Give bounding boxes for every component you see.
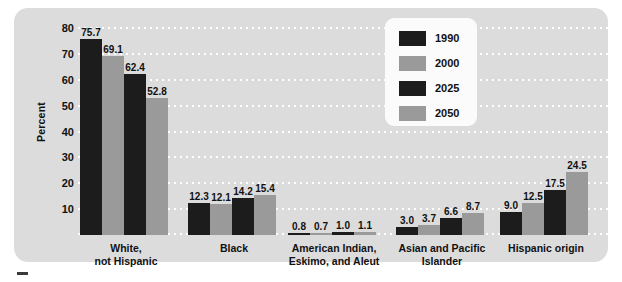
legend-list: 1990200020252050 <box>399 27 459 127</box>
bar[interactable]: 69.1 <box>102 56 124 235</box>
legend-item[interactable]: 1990 <box>399 27 459 50</box>
bar-value-label: 9.0 <box>504 200 518 211</box>
bar[interactable]: 3.0 <box>396 227 418 235</box>
legend-swatch <box>399 31 426 46</box>
legend-label: 1990 <box>435 33 459 44</box>
bar[interactable]: 0.7 <box>310 233 332 235</box>
legend-label: 2050 <box>435 108 459 119</box>
bar[interactable]: 15.4 <box>254 195 276 235</box>
bar-group-bars: 0.80.71.01.1 <box>288 28 380 235</box>
bar[interactable]: 3.7 <box>418 225 440 235</box>
bar-group: 0.80.71.01.1 <box>288 28 380 235</box>
plot-area: 75.769.162.452.812.312.114.215.40.80.71.… <box>76 28 610 235</box>
bar[interactable]: 9.0 <box>500 212 522 235</box>
legend-swatch <box>399 81 426 96</box>
bar[interactable]: 0.8 <box>288 233 310 235</box>
bar-group-bars: 75.769.162.452.8 <box>80 28 172 235</box>
bar-value-label: 12.1 <box>211 192 230 203</box>
bar-value-label: 24.5 <box>567 160 586 171</box>
bar-group: 9.012.517.524.5 <box>500 28 592 235</box>
y-axis-title: Percent <box>35 87 47 157</box>
bar-group-bars: 12.312.114.215.4 <box>188 28 280 235</box>
bar-value-label: 15.4 <box>255 183 274 194</box>
corner-mark <box>17 272 28 275</box>
bar-value-label: 14.2 <box>233 186 252 197</box>
bar[interactable]: 14.2 <box>232 198 254 235</box>
bar-value-label: 52.8 <box>147 86 166 97</box>
bar-value-label: 17.5 <box>545 178 564 189</box>
bar-value-label: 75.7 <box>81 27 100 38</box>
y-axis-tick-label: 20 <box>48 178 74 189</box>
legend-label: 2000 <box>435 58 459 69</box>
bar-value-label: 69.1 <box>103 44 122 55</box>
bar-value-label: 8.7 <box>466 201 480 212</box>
bar[interactable]: 17.5 <box>544 190 566 235</box>
bar[interactable]: 1.1 <box>354 232 376 235</box>
y-axis-tick-labels: 8070605040302010 <box>48 28 74 235</box>
bar-value-label: 12.5 <box>523 191 542 202</box>
bar[interactable]: 1.0 <box>332 232 354 235</box>
y-axis-tick-label: 10 <box>48 204 74 215</box>
bar-group: 12.312.114.215.4 <box>188 28 280 235</box>
bar-value-label: 1.1 <box>358 220 372 231</box>
bar-group: 75.769.162.452.8 <box>80 28 172 235</box>
y-axis-tick-label: 70 <box>48 48 74 59</box>
bar[interactable]: 12.3 <box>188 203 210 235</box>
legend-label: 2025 <box>435 83 459 94</box>
y-axis-tick-label: 80 <box>48 23 74 34</box>
legend-swatch <box>399 106 426 121</box>
legend-item[interactable]: 2050 <box>399 102 459 125</box>
legend-swatch <box>399 56 426 71</box>
bar[interactable]: 12.1 <box>210 204 232 235</box>
bar-value-label: 0.7 <box>314 221 328 232</box>
bar-value-label: 0.8 <box>292 221 306 232</box>
y-axis-tick-label: 30 <box>48 152 74 163</box>
bar-group-bars: 9.012.517.524.5 <box>500 28 592 235</box>
bar-value-label: 12.3 <box>189 191 208 202</box>
y-axis-tick-label: 60 <box>48 74 74 85</box>
bar-chart-figure: Percent 8070605040302010 75.769.162.452.… <box>0 0 622 282</box>
x-axis-category-label: Hispanic origin <box>481 242 611 255</box>
bar[interactable]: 6.6 <box>440 218 462 235</box>
bar[interactable]: 8.7 <box>462 213 484 236</box>
legend-item[interactable]: 2025 <box>399 77 459 100</box>
bar[interactable]: 75.7 <box>80 39 102 235</box>
bar[interactable]: 24.5 <box>566 172 588 235</box>
y-axis-tick-label: 40 <box>48 126 74 137</box>
y-axis-tick-label: 50 <box>48 100 74 111</box>
legend-item[interactable]: 2000 <box>399 52 459 75</box>
legend: 1990200020252050 <box>385 18 477 126</box>
bar-value-label: 3.7 <box>422 213 436 224</box>
bar-value-label: 1.0 <box>336 220 350 231</box>
bar-value-label: 6.6 <box>444 206 458 217</box>
chart-panel: Percent 8070605040302010 75.769.162.452.… <box>14 8 608 262</box>
bar[interactable]: 62.4 <box>124 74 146 235</box>
bar-value-label: 3.0 <box>400 215 414 226</box>
bar[interactable]: 52.8 <box>146 98 168 235</box>
bar[interactable]: 12.5 <box>522 203 544 235</box>
bar-value-label: 62.4 <box>125 62 144 73</box>
